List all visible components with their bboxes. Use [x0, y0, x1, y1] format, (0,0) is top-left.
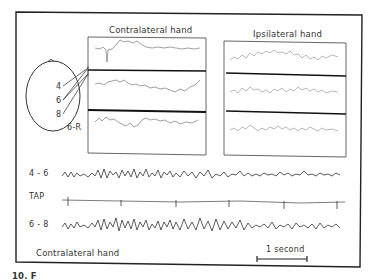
electrode-lead: [63, 68, 88, 100]
eeg-figure: Contralateral hand Ipsilateral hand 4 6 …: [0, 0, 374, 280]
figure-graphics: [0, 0, 374, 280]
eeg-wave: [95, 40, 200, 62]
eeg-wave: [230, 50, 338, 60]
electrode-label-4: 4: [56, 82, 61, 91]
eeg-wave: [230, 125, 338, 131]
ipsilateral-panel-title: Ipsilateral hand: [253, 29, 322, 39]
eeg-wave: [95, 80, 200, 92]
electrode-label-6-r: 6-R: [67, 123, 81, 132]
trace-6-8: [62, 218, 340, 231]
tap-trace: [62, 200, 345, 203]
trace-label-tap: TAP: [29, 192, 44, 201]
separator-line: [88, 110, 206, 112]
trace-label-6-8: 6 - 8: [29, 220, 49, 229]
ipsilateral-panel-frame: [224, 41, 346, 157]
separator-line: [88, 70, 206, 71]
separator-line: [226, 73, 346, 76]
separator-line: [226, 111, 346, 114]
electrode-lead: [63, 74, 88, 114]
contralateral-panel-title: Contralateral hand: [109, 25, 192, 35]
electrode-lead: [63, 68, 88, 86]
scale-bar-label: 1 second: [266, 245, 305, 254]
contralateral-panel-frame: [88, 37, 206, 155]
electrode-label-8: 8: [56, 110, 61, 119]
caption-fragment: 10. F: [12, 271, 37, 280]
trace-4-6: [62, 169, 340, 178]
eeg-wave: [95, 117, 198, 127]
electrode-lead: [63, 74, 88, 100]
electrode-label-6: 6: [56, 96, 61, 105]
head-outline: [26, 61, 80, 131]
eeg-wave: [230, 87, 338, 93]
bottom-label: Contralateral hand: [36, 248, 119, 258]
trace-label-4-6: 4 - 6: [29, 169, 49, 178]
